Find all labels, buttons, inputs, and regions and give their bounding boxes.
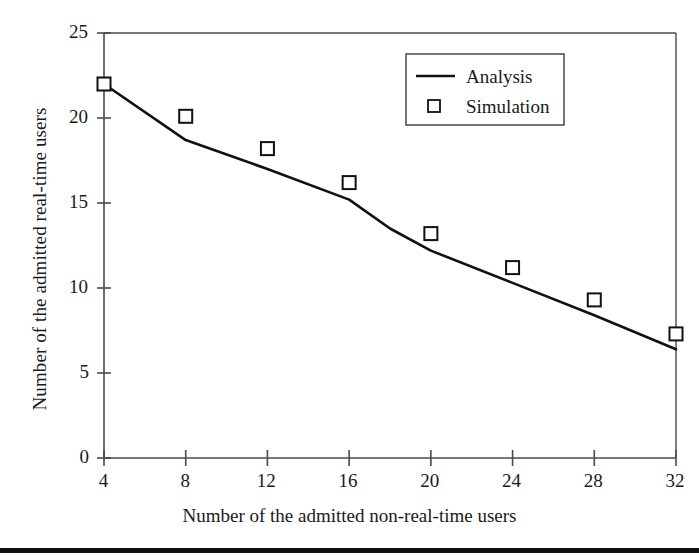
y-tick-label: 10 [69,276,88,298]
data-point-marker [261,142,274,155]
x-tick-label: 16 [339,470,358,492]
data-point-marker [98,78,111,91]
footer-rule [0,548,699,553]
series-simulation-markers [98,78,683,341]
x-tick-label: 24 [502,470,521,492]
x-axis-title: Number of the admitted non-real-time use… [0,505,699,527]
data-point-marker [670,327,683,340]
legend: Analysis Simulation [406,54,564,125]
x-tick-label: 12 [257,470,276,492]
y-tick-label: 25 [69,21,88,43]
x-tick-label: 8 [180,470,190,492]
axis-lines [104,33,676,458]
x-tick-label: 4 [99,470,109,492]
y-tick-label: 20 [69,106,88,128]
y-axis-title: Number of the admitted real-time users [29,39,51,479]
data-point-marker [588,293,601,306]
x-tick-label: 28 [584,470,603,492]
data-point-marker [424,227,437,240]
y-tick-label: 15 [69,191,88,213]
y-tick-label: 5 [80,361,90,383]
legend-square-swatch [428,100,440,112]
data-point-marker [343,176,356,189]
x-tick-label: 20 [420,470,439,492]
y-tick-label: 0 [80,446,90,468]
data-point-marker [506,261,519,274]
legend-label-analysis: Analysis [466,66,533,87]
figure-chart: Analysis Simulation 0510152025 481216202… [0,0,699,556]
data-point-marker [179,110,192,123]
x-tick-label: 32 [665,470,684,492]
legend-label-simulation: Simulation [466,96,550,117]
